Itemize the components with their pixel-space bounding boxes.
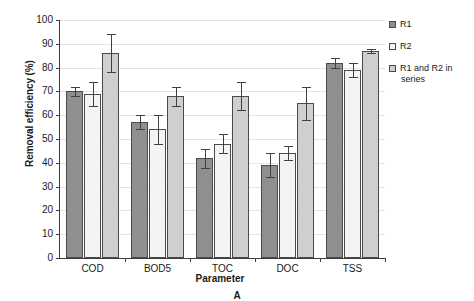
error-bar-cap — [237, 82, 246, 83]
bar — [102, 53, 119, 258]
error-bar-cap — [367, 53, 376, 54]
bar — [326, 63, 343, 258]
error-bar — [241, 82, 242, 111]
bar — [84, 94, 101, 258]
y-axis-tick-label: 100 — [36, 15, 53, 25]
error-bar-cap — [219, 134, 228, 135]
y-axis-tick-label: 50 — [42, 134, 53, 144]
error-bar-cap — [331, 68, 340, 69]
error-bar — [353, 63, 354, 77]
error-bar-cap — [349, 77, 358, 78]
error-bar — [140, 115, 141, 129]
bar — [167, 96, 184, 258]
legend-swatch-r1 — [389, 21, 396, 28]
bar-group-cod: COD — [60, 20, 125, 258]
error-bar — [111, 34, 112, 72]
error-bar — [288, 146, 289, 160]
y-axis-tick-label: 20 — [42, 205, 53, 215]
error-bar-cap — [266, 177, 275, 178]
plot-area: 0102030405060708090100CODBOD5TOCDOCTSS — [59, 20, 385, 259]
bar-group-bod5: BOD5 — [125, 20, 190, 258]
bar — [261, 165, 278, 258]
error-bar — [75, 87, 76, 97]
legend-label-series-line2: series — [401, 74, 474, 85]
bar — [66, 91, 83, 258]
y-axis-tick-label: 30 — [42, 182, 53, 192]
x-axis-tick — [190, 258, 191, 262]
legend-item-r2: R2 — [389, 41, 474, 52]
bar — [232, 96, 249, 258]
error-bar — [223, 134, 224, 153]
x-axis-tick — [385, 258, 386, 262]
error-bar-cap — [136, 115, 145, 116]
error-bar-cap — [89, 106, 98, 107]
error-bar-cap — [107, 72, 116, 73]
y-axis-tick-label: 40 — [42, 158, 53, 168]
error-bar-cap — [136, 129, 145, 130]
bar — [214, 144, 231, 258]
legend-swatch-series — [389, 65, 396, 72]
y-axis-title: Removal efficiency (%) — [24, 29, 35, 199]
legend-item-r1: R1 — [389, 19, 474, 30]
legend-swatch-r2 — [389, 43, 396, 50]
error-bar-cap — [201, 168, 210, 169]
figure-caption: A — [0, 290, 474, 301]
error-bar-cap — [367, 49, 376, 50]
legend: R1 R2 R1 and R2 in series — [389, 19, 474, 96]
error-bar — [176, 87, 177, 106]
bar-group-doc: DOC — [255, 20, 320, 258]
x-axis-tick — [255, 258, 256, 262]
error-bar-cap — [237, 110, 246, 111]
legend-item-series: R1 and R2 in series — [389, 63, 474, 85]
bar — [279, 153, 296, 258]
error-bar-cap — [284, 160, 293, 161]
error-bar — [306, 87, 307, 120]
error-bar-cap — [71, 87, 80, 88]
bar-group-tss: TSS — [320, 20, 385, 258]
error-bar-cap — [107, 34, 116, 35]
error-bar — [158, 115, 159, 144]
error-bar — [335, 58, 336, 68]
y-axis-tick-label: 10 — [42, 229, 53, 239]
error-bar-cap — [71, 96, 80, 97]
error-bar-cap — [219, 153, 228, 154]
error-bar — [93, 82, 94, 106]
error-bar — [270, 153, 271, 177]
error-bar-cap — [331, 58, 340, 59]
error-bar-cap — [302, 87, 311, 88]
error-bar — [205, 149, 206, 168]
bar — [149, 129, 166, 258]
x-axis-tick — [320, 258, 321, 262]
y-axis-tick — [56, 258, 60, 259]
legend-label-r2: R2 — [400, 41, 412, 51]
error-bar-cap — [89, 82, 98, 83]
error-bar-cap — [284, 146, 293, 147]
error-bar-cap — [154, 144, 163, 145]
error-bar-cap — [266, 153, 275, 154]
y-axis-tick-label: 0 — [47, 253, 53, 263]
bar — [297, 103, 314, 258]
bar-group-toc: TOC — [190, 20, 255, 258]
x-axis-tick — [125, 258, 126, 262]
bar — [196, 158, 213, 258]
legend-label-series: R1 and R2 in — [400, 63, 453, 73]
error-bar-cap — [201, 149, 210, 150]
legend-label-r1: R1 — [400, 19, 412, 29]
bar — [362, 51, 379, 258]
y-axis-tick-label: 80 — [42, 63, 53, 73]
y-axis-tick-label: 60 — [42, 110, 53, 120]
y-axis-tick-label: 90 — [42, 39, 53, 49]
error-bar-cap — [172, 106, 181, 107]
error-bar-cap — [302, 120, 311, 121]
y-axis-tick-label: 70 — [42, 86, 53, 96]
error-bar-cap — [154, 115, 163, 116]
error-bar-cap — [349, 63, 358, 64]
error-bar-cap — [172, 87, 181, 88]
bar — [344, 70, 361, 258]
figure-chart-a: Removal efficiency (%) 01020304050607080… — [0, 0, 474, 301]
bar — [131, 122, 148, 258]
x-axis-title: Parameter — [55, 273, 385, 284]
